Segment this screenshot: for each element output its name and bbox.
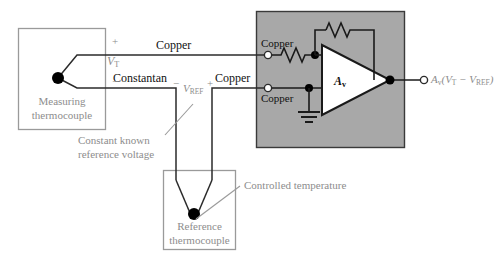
vt-minus-sign: − — [112, 76, 118, 87]
vref-plus-sign: + — [207, 78, 213, 89]
measuring-thermocouple-label-line1: Measuring — [18, 95, 106, 109]
measuring-thermocouple-label-line2: thermocouple — [18, 109, 106, 123]
measuring-junction-lower-wire — [58, 78, 110, 88]
measuring-junction-upper-wire — [58, 55, 110, 78]
copper-amp-top-label: Copper — [261, 38, 293, 49]
reference-junction-left-wire — [176, 180, 190, 213]
vref-symbol: V — [183, 82, 190, 94]
annotation-constant-known-reference-voltage: Constant known reference voltage — [78, 134, 174, 162]
vref-minus-sign: − — [173, 78, 179, 89]
gain-subscript: v — [342, 80, 346, 89]
output-terminal — [420, 76, 427, 83]
vt-plus-sign: + — [112, 36, 118, 47]
copper-mid-label: Copper — [215, 72, 250, 84]
vt-subscript: T — [114, 60, 119, 69]
measuring-thermocouple-label: Measuring thermocouple — [18, 95, 106, 123]
copper-top-label: Copper — [156, 39, 191, 51]
constantan-label: Constantan — [113, 72, 167, 84]
vref-subscript: REF — [190, 87, 204, 96]
reference-junction-dot — [188, 208, 200, 220]
amplifier-gain-label: Av — [334, 75, 346, 89]
vt-label: VT — [107, 55, 119, 69]
output-gain-symbol: A — [431, 73, 438, 85]
amp-positive-terminal — [264, 51, 271, 58]
leader-constant-known — [165, 104, 193, 135]
copper-amp-bottom-label: Copper — [261, 93, 293, 104]
gain-symbol: A — [334, 74, 342, 88]
circuit-schematic-svg — [0, 0, 496, 273]
output-vref-subscript: REF — [476, 78, 490, 87]
reference-thermocouple-label-line1: Reference — [163, 220, 236, 234]
output-expression: Av(VT − VREF) — [431, 74, 493, 87]
annotation-constant-known-line1: Constant known — [78, 134, 174, 148]
measuring-junction-dot — [52, 72, 64, 84]
annotation-constant-known-line2: reference voltage — [78, 148, 174, 162]
annotation-controlled-temperature: Controlled temperature — [244, 180, 346, 191]
output-open-paren: (V — [441, 73, 451, 85]
amp-negative-terminal — [264, 84, 271, 91]
vref-label: VREF — [183, 83, 203, 96]
output-node-dot — [386, 76, 395, 85]
reference-thermocouple-label: Reference thermocouple — [163, 220, 236, 248]
output-close-paren: ) — [490, 73, 494, 85]
reference-thermocouple-label-line2: thermocouple — [163, 234, 236, 248]
figure-canvas: Copper Constantan Copper Copper Copper +… — [0, 0, 496, 273]
output-minus: − V — [456, 73, 476, 85]
